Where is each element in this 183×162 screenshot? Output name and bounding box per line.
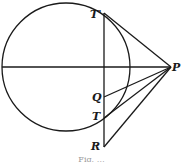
figure-caption: Fig. …	[0, 156, 183, 162]
label-p: P	[172, 62, 180, 73]
label-t-prime: T'	[90, 9, 102, 20]
label-r: R	[91, 141, 100, 152]
segment-r-to-p	[104, 67, 171, 147]
geometry-figure: T' P Q T R Fig. …	[0, 0, 183, 162]
label-q: Q	[92, 92, 102, 103]
tangent-t-prime-to-p	[104, 13, 171, 67]
label-t: T	[92, 111, 100, 122]
figure-canvas	[0, 0, 183, 162]
